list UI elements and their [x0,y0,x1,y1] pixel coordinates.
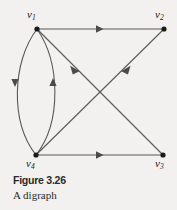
digraph-diagram [0,0,177,178]
vertex-label-v3: v3 [155,158,164,169]
vertex-label-v2: v2 [155,9,164,20]
figure-container: v1 v2 v3 v4 Figure 3.26 A digraph [0,0,177,210]
vertex-dot-v3 [160,152,165,157]
vertex-label-v4: v4 [26,158,35,169]
arrowhead-v4-to-v1-up [49,78,56,86]
figure-caption-title: Figure 3.26 [13,174,151,187]
figure-caption: Figure 3.26 A digraph [13,174,163,202]
arrowhead-v1-to-v2 [96,25,104,32]
arrowhead-group [11,25,130,158]
vertex-dot-v4 [33,152,38,157]
arrowhead-v4-to-v3 [96,151,104,158]
edge-v4-to-v1-curve-right [36,29,55,155]
vertex-label-v4-subscript: 4 [31,162,35,171]
vertex-label-v2-subscript: 2 [160,13,164,22]
vertex-dot-v1 [34,26,39,31]
vertex-label-v1: v1 [27,9,36,20]
vertex-dot-v2 [161,26,166,31]
figure-caption-subtitle: A digraph [13,189,163,202]
edge-v1-to-v4-curve-left [17,29,37,155]
edge-group [17,29,164,155]
vertex-label-v1-subscript: 1 [32,13,36,22]
vertex-label-v3-subscript: 3 [160,162,164,171]
